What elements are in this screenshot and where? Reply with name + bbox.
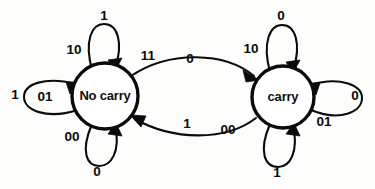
state-carry-label: carry xyxy=(268,89,300,104)
no-carry-to-carry-input-label: 11 xyxy=(141,48,156,63)
transition-no-carry-self-top: 10 1 xyxy=(66,8,122,71)
carry-self-right-input-label: 01 xyxy=(316,114,332,129)
carry-self-top-input-label: 10 xyxy=(243,41,258,56)
carry-to-no-carry-input-label: 00 xyxy=(220,122,235,137)
transition-carry-self-bottom: 1 xyxy=(264,123,300,180)
state-carry[interactable]: carry xyxy=(252,66,314,128)
no-carry-self-top-input-label: 10 xyxy=(66,42,81,57)
carry-to-no-carry-path xyxy=(135,118,256,135)
state-diagram-svg: 10 1 01 1 00 0 11 0 00 1 xyxy=(0,0,375,189)
transition-no-carry-self-bottom: 00 0 xyxy=(64,123,122,179)
no-carry-to-carry-output-label: 0 xyxy=(186,51,194,66)
no-carry-self-left-input-label: 01 xyxy=(37,89,53,104)
no-carry-self-left-output-label: 1 xyxy=(11,87,19,102)
transition-no-carry-self-left: 01 1 xyxy=(11,81,79,114)
carry-self-right-output-label: 0 xyxy=(351,88,359,103)
state-no-carry[interactable]: No carry xyxy=(72,63,138,129)
no-carry-self-bottom-input-label: 00 xyxy=(64,129,79,144)
no-carry-self-top-output-label: 1 xyxy=(100,8,108,23)
carry-to-no-carry-output-label: 1 xyxy=(183,116,191,131)
transition-carry-self-top: 10 0 xyxy=(243,8,300,73)
state-no-carry-label: No carry xyxy=(79,88,131,103)
carry-self-bottom-output-label: 1 xyxy=(273,165,281,180)
transition-carry-to-no-carry: 00 1 xyxy=(130,115,256,137)
state-diagram-canvas: 10 1 01 1 00 0 11 0 00 1 xyxy=(0,0,375,189)
transition-no-carry-to-carry: 11 0 xyxy=(131,48,259,82)
carry-self-top-output-label: 0 xyxy=(277,8,285,23)
transition-carry-self-right: 01 0 xyxy=(307,81,362,128)
no-carry-self-bottom-output-label: 0 xyxy=(93,164,101,179)
